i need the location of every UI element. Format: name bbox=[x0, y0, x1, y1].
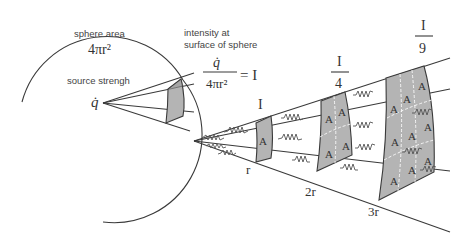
sphere-area-label: sphere area bbox=[74, 28, 125, 39]
intensity-label-line1: intensity at bbox=[184, 27, 230, 38]
area-label: A bbox=[418, 80, 426, 92]
stage-3-patch: A A A A A A A A A I 9 3r bbox=[368, 18, 436, 219]
intensity-formula: q̇ 4πr² = I bbox=[203, 55, 257, 91]
area-label: A bbox=[325, 148, 333, 160]
stage-2-patch: A A A A I 4 2r bbox=[305, 54, 375, 199]
area-label: A bbox=[325, 113, 333, 125]
area-label: A bbox=[403, 93, 411, 105]
area-label: A bbox=[342, 140, 350, 152]
stage-3-intensity-num: I bbox=[421, 18, 426, 33]
intensity-denominator: 4πr² bbox=[206, 76, 227, 91]
area-label: A bbox=[390, 175, 398, 187]
source-symbol: q̇ bbox=[91, 94, 99, 110]
area-label: A bbox=[391, 136, 399, 148]
diagram-canvas: sphere area 4πr² source strengh q̇ inten… bbox=[0, 0, 469, 235]
area-label: A bbox=[338, 106, 346, 118]
stage-1-intensity: I bbox=[258, 97, 263, 112]
stage-3-distance: 3r bbox=[368, 204, 380, 219]
area-label: A bbox=[408, 164, 416, 176]
stage-3-intensity-den: 9 bbox=[419, 41, 426, 56]
intensity-numerator: q̇ bbox=[213, 55, 220, 70]
stage-2-distance: 2r bbox=[305, 184, 317, 199]
sphere-area-formula: 4πr² bbox=[88, 42, 111, 57]
intensity-equals: = I bbox=[240, 67, 257, 83]
stage-2-intensity-den: 4 bbox=[335, 76, 342, 91]
area-label: A bbox=[390, 103, 398, 115]
sphere-panel: sphere area 4πr² source strengh q̇ inten… bbox=[22, 27, 257, 223]
stage-1-distance: r bbox=[246, 162, 251, 177]
sphere-arc bbox=[22, 36, 202, 222]
cone-panel: A I r A A A A I 4 2r bbox=[194, 18, 450, 232]
area-label: A bbox=[408, 130, 416, 142]
area-label: A bbox=[424, 121, 432, 133]
stage-2-intensity-num: I bbox=[337, 54, 342, 69]
stage-1-patch: A I r bbox=[246, 97, 310, 177]
inverse-square-law-diagram: sphere area 4πr² source strengh q̇ inten… bbox=[0, 0, 469, 235]
source-strength-label: source strengh bbox=[67, 75, 130, 86]
area-label: A bbox=[259, 135, 267, 147]
intensity-label-line2: surface of sphere bbox=[184, 39, 257, 50]
